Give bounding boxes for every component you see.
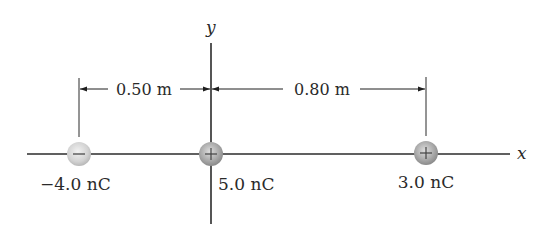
- charge-label-1: −4.0 nC: [40, 174, 111, 194]
- positive-charge-origin: [199, 142, 223, 166]
- dimension-0-80m: 0.80 m: [212, 80, 425, 99]
- charge-label-2: 5.0 nC: [218, 174, 274, 194]
- charge-label-3: 3.0 nC: [398, 172, 454, 192]
- positive-charge-right: [414, 141, 438, 165]
- y-axis-label: y: [205, 17, 216, 37]
- dimension-0-50m: 0.50 m: [80, 80, 210, 99]
- charge-diagram: y x 0.50 m 0.80 m −4.0 nC 5.0 nC 3.0 nC: [0, 0, 542, 237]
- dimension-label-2: 0.80 m: [294, 80, 350, 99]
- negative-charge: [67, 142, 91, 166]
- x-axis-label: x: [517, 143, 527, 163]
- dimension-label-1: 0.50 m: [116, 80, 172, 99]
